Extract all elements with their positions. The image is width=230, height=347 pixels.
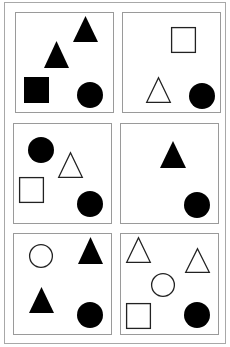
filled-circle-icon bbox=[77, 191, 103, 217]
filled-circle-icon bbox=[77, 82, 103, 108]
figure-canvas bbox=[0, 0, 230, 347]
panels-group bbox=[14, 13, 221, 335]
shape-puzzle-figure bbox=[0, 0, 230, 347]
panel-2 bbox=[123, 13, 221, 113]
filled-square-icon bbox=[24, 77, 49, 103]
filled-circle-icon bbox=[184, 192, 210, 218]
panel-4 bbox=[121, 124, 219, 224]
panel-6 bbox=[121, 234, 219, 335]
filled-circle-icon bbox=[28, 137, 54, 163]
panel-3 bbox=[14, 124, 112, 224]
filled-circle-icon bbox=[77, 302, 103, 328]
filled-circle-icon bbox=[189, 83, 215, 109]
panel-5 bbox=[14, 234, 112, 335]
filled-circle-icon bbox=[184, 302, 210, 328]
panel-1 bbox=[16, 13, 114, 113]
